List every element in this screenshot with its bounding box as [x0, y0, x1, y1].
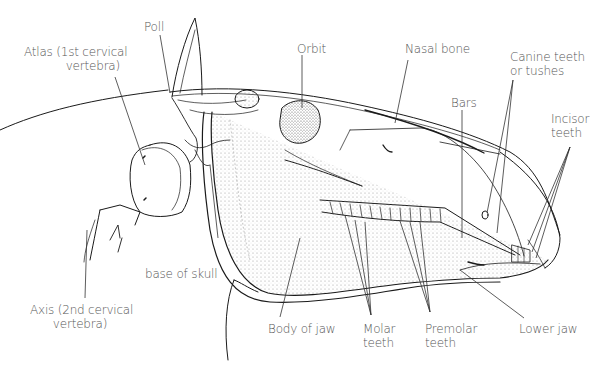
- axis-vertebra: [84, 205, 140, 262]
- label-premolar-teeth: Premolar teeth: [425, 322, 477, 350]
- label-canine-teeth: Canine teeth or tushes: [510, 50, 585, 78]
- lower-jaw-outline: [202, 112, 548, 302]
- atlas-vertebra: [130, 143, 191, 217]
- label-axis: Axis (2nd cervical vertebra): [30, 303, 130, 331]
- label-atlas: Atlas (1st cervical vertebra): [24, 45, 120, 73]
- label-incisor-teeth: Incisor teeth: [551, 112, 589, 140]
- label-molar-teeth: Molar teeth: [363, 322, 395, 350]
- horse-skull-diagram: Poll Atlas (1st cervical vertebra) Orbit…: [0, 0, 606, 369]
- label-body-of-jaw: Body of jaw: [268, 322, 335, 336]
- label-bars: Bars: [451, 96, 477, 110]
- label-poll: Poll: [144, 20, 164, 34]
- label-lower-jaw: Lower jaw: [519, 322, 577, 336]
- label-orbit: Orbit: [297, 42, 326, 56]
- neck-crest: [0, 90, 168, 130]
- label-base-of-skull: base of skull: [145, 267, 217, 281]
- ear: [172, 18, 202, 97]
- orbit-shape: [280, 101, 321, 144]
- label-nasal-bone: Nasal bone: [405, 42, 470, 56]
